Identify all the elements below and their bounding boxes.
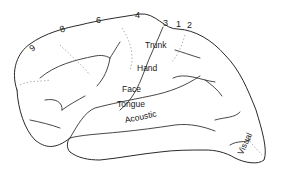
area-number-2: 2 [187,21,192,30]
label-tongue: Tongue [117,100,145,109]
area-number-3: 3 [163,19,168,28]
label-trunk: Trunk [145,41,166,50]
label-face: Face [122,85,141,94]
label-hand: Hand [137,64,157,73]
area-number-4: 4 [135,11,140,20]
brain-diagram: 9 8 6 4 3 1 2 Trunk Hand Face Tongue Aco… [0,0,284,183]
area-number-6: 6 [96,16,101,25]
area-number-1: 1 [176,20,181,29]
brain-outline-drawing [0,0,284,183]
